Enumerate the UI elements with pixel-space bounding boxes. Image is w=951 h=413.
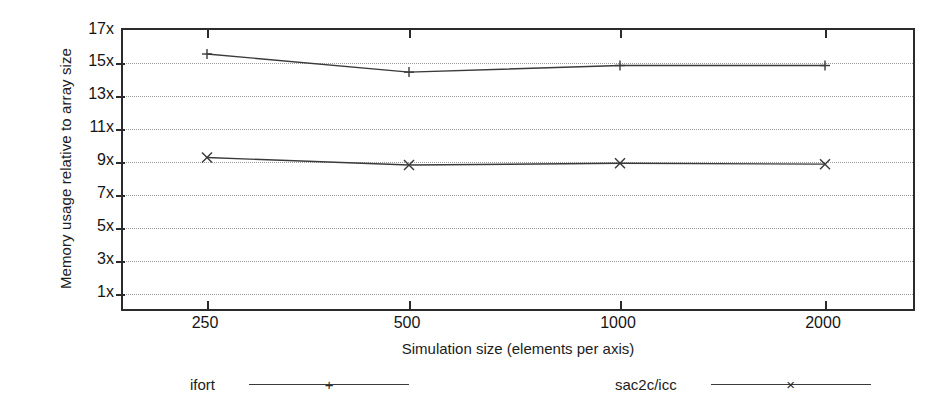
plot-area	[121, 28, 915, 311]
y-tick-label: 11x	[89, 119, 114, 135]
series-sac2c-icc	[202, 153, 830, 170]
x-axis-title: Simulation size (elements per axis)	[121, 340, 915, 357]
y-tick-label: 5x	[97, 218, 114, 234]
legend-entry-ifort[interactable]: ifort +	[190, 372, 409, 396]
legend-entry-sac2c-icc[interactable]: sac2c/icc ×	[615, 372, 871, 396]
y-tick-label: 15x	[88, 53, 114, 69]
y-tick-label: 7x	[97, 185, 114, 201]
plus-marker-icon	[202, 49, 212, 59]
chart-legend: ifort + sac2c/icc ×	[0, 372, 951, 402]
legend-sample-line: ×	[711, 376, 871, 392]
plus-marker-icon	[820, 61, 830, 71]
y-tick-label: 9x	[97, 152, 114, 168]
x-tick-label: 250	[192, 314, 219, 332]
legend-sample-line: +	[249, 376, 409, 392]
plus-marker-icon: +	[325, 377, 334, 392]
chart-figure: Memory usage relative to array size 1x 3…	[0, 0, 951, 413]
x-tick-label: 2000	[805, 314, 841, 332]
cross-marker-icon: ×	[786, 377, 795, 392]
series-line	[207, 158, 825, 165]
x-tick-label: 1000	[600, 314, 636, 332]
plus-marker-icon	[615, 61, 625, 71]
x-axis-tick-labels: 250 500 1000 2000	[121, 314, 915, 338]
y-axis-tick-labels: 1x 3x 5x 7x 9x 11x 13x 15x 17x	[62, 28, 114, 311]
y-tick-label: 1x	[97, 284, 114, 300]
x-tick-label: 500	[394, 314, 421, 332]
series-line	[207, 54, 825, 72]
y-tick-label: 13x	[88, 86, 114, 102]
plus-marker-icon	[404, 67, 414, 77]
y-tick-label: 3x	[97, 251, 114, 267]
legend-label: sac2c/icc	[615, 376, 677, 393]
series-ifort	[202, 49, 830, 77]
y-tick-label: 17x	[88, 21, 114, 37]
data-series-layer	[123, 30, 917, 313]
legend-label: ifort	[190, 376, 215, 393]
